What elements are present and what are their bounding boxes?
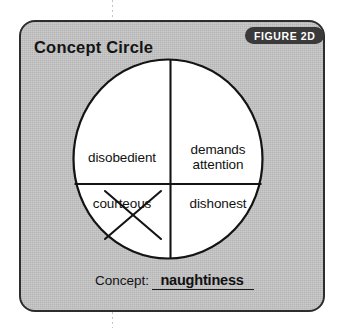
quadrant-label-bottom-right: dishonest	[171, 196, 265, 211]
quadrant-label-bottom-left: courteous	[73, 196, 171, 211]
scan-guide-top-icon	[112, 0, 113, 20]
concept-circle-card: FIGURE 2D Concept Circle disobedient dem…	[19, 20, 325, 312]
concept-label: Concept:	[95, 273, 149, 288]
page-title: Concept Circle	[34, 38, 153, 57]
quadrant-label-top-right: demands attention	[171, 142, 265, 172]
worksheet-page: FIGURE 2D Concept Circle disobedient dem…	[0, 0, 343, 328]
concept-answer-row: Concept: naughtiness	[95, 272, 254, 290]
quadrant-label-top-right-line2: attention	[171, 157, 265, 172]
concept-answer-field[interactable]: naughtiness	[152, 272, 254, 290]
quadrant-label-top-left: disobedient	[73, 150, 171, 165]
concept-circle-diagram: disobedient demands attention courteous …	[71, 58, 265, 263]
quadrant-label-top-right-line1: demands	[171, 142, 265, 157]
figure-badge: FIGURE 2D	[245, 27, 324, 44]
scan-guide-bottom-icon	[112, 312, 113, 328]
